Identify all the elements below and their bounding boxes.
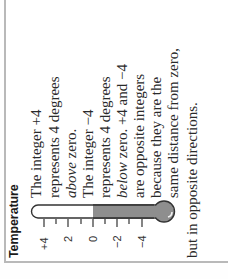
text-line-8: because they are the	[148, 77, 165, 198]
text-line-2: represents 4 degrees	[46, 76, 63, 198]
text-line-3: above zero.	[63, 129, 80, 198]
text-line-10: but in opposite directions.	[184, 102, 201, 258]
tick-label-minus4: −4	[136, 235, 148, 248]
tick-label-minus2: −2	[111, 235, 123, 248]
text-line-6-rest: zero. +4 and −4	[114, 64, 130, 162]
tick-label-2: 2	[62, 236, 74, 242]
text-line-3-rest: zero.	[63, 129, 79, 162]
tick-label-plus4: +4	[38, 237, 50, 250]
text-line-9: same distance from zero,	[165, 48, 182, 198]
rotated-page: Temperature +4 2 0 −2 −4 The integer +4 …	[0, 0, 228, 279]
tick-label-0: 0	[87, 236, 99, 242]
text-line-6: below zero. +4 and −4	[114, 64, 131, 198]
emphasis-below: below	[114, 162, 130, 198]
text-line-7: are opposite integers	[131, 74, 148, 198]
emphasis-above: above	[63, 162, 79, 198]
text-line-1: The integer +4	[28, 110, 45, 198]
text-line-5: represents 4 degrees	[97, 76, 114, 198]
text-line-4: The integer −4	[80, 110, 97, 198]
